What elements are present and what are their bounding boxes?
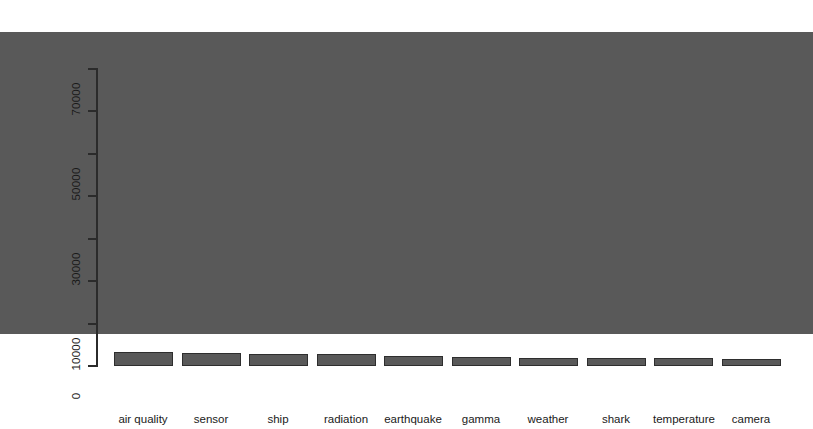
x-label-gamma: gamma — [462, 413, 500, 425]
bar-weather[interactable] — [519, 358, 578, 366]
x-label-sensor: sensor — [194, 413, 229, 425]
bar-radiation[interactable] — [317, 354, 376, 365]
y-tick-20000 — [88, 280, 97, 282]
y-tick-30000 — [88, 238, 97, 240]
y-tick-60000 — [88, 110, 97, 112]
y-tick-50000 — [88, 153, 97, 155]
y-tick-label-10000: 10000 — [70, 324, 82, 384]
x-label-earthquake: earthquake — [384, 413, 442, 425]
bar-chart: 0 10000 30000 50000 70000 air quality se… — [0, 32, 813, 334]
bar-earthquake[interactable] — [384, 356, 443, 365]
bar-temperature[interactable] — [654, 358, 713, 366]
x-label-temperature: temperature — [653, 413, 715, 425]
y-tick-label-30000: 30000 — [70, 239, 82, 299]
bar-air-quality[interactable] — [114, 352, 173, 366]
y-tick-10000 — [88, 323, 97, 325]
x-label-radiation: radiation — [324, 413, 368, 425]
y-axis-line — [96, 68, 98, 366]
bar-ship[interactable] — [249, 354, 308, 366]
y-tick-40000 — [88, 195, 97, 197]
y-tick-label-50000: 50000 — [70, 154, 82, 214]
y-tick-0 — [88, 365, 97, 367]
y-tick-label-70000: 70000 — [70, 69, 82, 129]
bar-sensor[interactable] — [182, 353, 241, 366]
x-label-camera: camera — [732, 413, 770, 425]
bar-camera[interactable] — [722, 359, 781, 366]
x-label-shark: shark — [602, 413, 630, 425]
x-label-ship: ship — [267, 413, 288, 425]
x-label-air-quality: air quality — [118, 413, 167, 425]
bar-shark[interactable] — [587, 358, 646, 365]
bar-series — [0, 32, 813, 53]
y-tick-70000 — [88, 68, 97, 70]
bar-gamma[interactable] — [452, 357, 511, 366]
x-label-weather: weather — [528, 413, 569, 425]
plot-area: 0 10000 30000 50000 70000 air quality se… — [0, 32, 813, 429]
